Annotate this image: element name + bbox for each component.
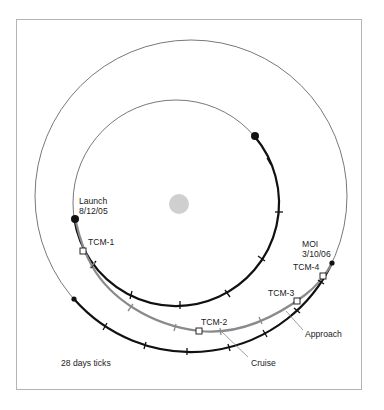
sun-icon [169, 194, 189, 214]
trajectory-diagram: Launch 8/12/05 TCM-1 TCM-2 TCM-3 TCM-4 M… [0, 0, 384, 410]
tcm3-marker [294, 298, 300, 304]
launch-label: Launch [79, 196, 107, 206]
transfer-ticks [90, 262, 262, 335]
tcm2-marker [196, 328, 202, 334]
tcm1-marker [80, 248, 86, 254]
tcm3-label: TCM-3 [268, 288, 294, 298]
tcm1-label: TCM-1 [88, 237, 114, 247]
earth-arc-ticks [91, 158, 283, 309]
cruise-label: Cruise [251, 358, 276, 368]
mars-arc [74, 263, 332, 352]
earth-arrival-dot [251, 132, 259, 140]
earth-arc [74, 137, 279, 306]
tcm2-label: TCM-2 [201, 317, 227, 327]
mars-start-dot [71, 296, 76, 301]
approach-label: Approach [305, 329, 342, 339]
launch-dot [71, 215, 79, 223]
moi-label: MOI [302, 239, 318, 249]
moi-date-label: 3/10/06 [302, 249, 331, 259]
tcm4-marker [320, 273, 326, 279]
tcm4-label: TCM-4 [293, 262, 319, 272]
launch-date-label: 8/12/05 [79, 206, 108, 216]
moi-dot [329, 260, 334, 265]
cruise-leader [222, 332, 248, 357]
legend-label: 28 days ticks [61, 358, 111, 368]
